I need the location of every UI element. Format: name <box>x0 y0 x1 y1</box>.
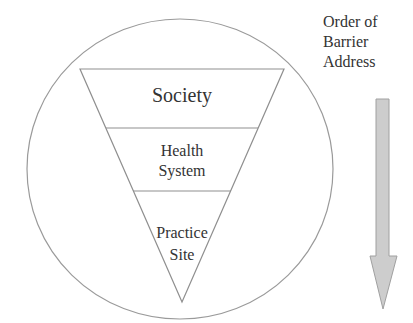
level-health-system-line2: System <box>132 161 232 181</box>
order-of-barrier-address-label: Order of Barrier Address <box>323 12 378 72</box>
level-health-system-line1: Health <box>132 141 232 161</box>
order-label-line3: Address <box>323 52 378 72</box>
down-arrow-icon <box>370 99 397 309</box>
order-label-line2: Barrier <box>323 32 378 52</box>
level-health-system: Health System <box>132 141 232 181</box>
level-society: Society <box>132 84 232 107</box>
barrier-diagram: Society Health System Practice Site Orde… <box>0 0 413 323</box>
order-label-line1: Order of <box>323 12 378 32</box>
level-practice-site: Practice Site <box>132 222 232 266</box>
level-practice-site-line1: Practice <box>132 222 232 244</box>
level-practice-site-line2: Site <box>132 244 232 266</box>
level-society-label: Society <box>152 84 212 106</box>
